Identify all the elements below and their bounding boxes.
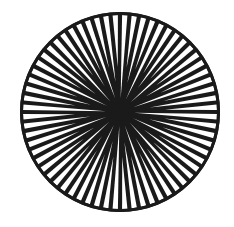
central-mouth (111, 103, 129, 121)
radial-disc-drawing (0, 0, 234, 227)
illustration: radial septa drawing (mushroom coral) (0, 0, 234, 227)
